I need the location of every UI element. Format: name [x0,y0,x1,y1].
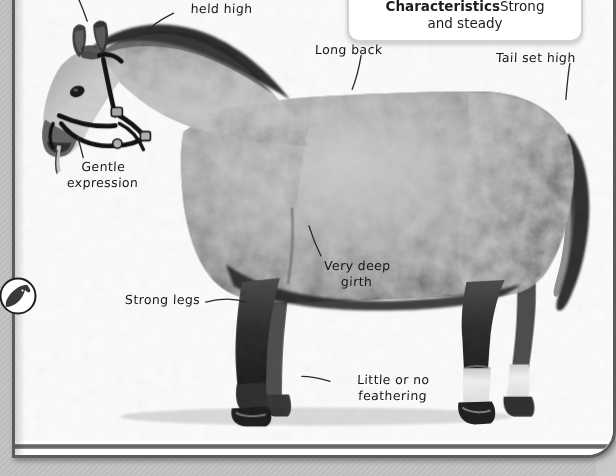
label-long-back: Long back [315,42,383,58]
label-gentle-expression: Gentle expression [54,159,151,190]
characteristics-heading: Characteristics [386,0,500,14]
horse-photograph [15,0,613,441]
page-content-area: Long ears Head and neck held high Long b… [15,0,613,455]
ground-line [15,444,613,449]
label-little-feathering: Little or no feathering [340,372,445,403]
label-head-and-neck: Head and neck held high [166,0,277,16]
horse-head-roundel-icon [0,276,38,316]
characteristics-line-2: and steady [349,15,581,32]
characteristics-value-1: Strong [500,0,545,14]
book-page: Long ears Head and neck held high Long b… [12,0,616,458]
label-very-deep-girth: Very deep girth [310,258,403,289]
label-tail-set-high: Tail set high [496,50,576,66]
characteristics-line-1: CharacteristicsStrong [349,0,581,15]
label-strong-legs: Strong legs [125,292,201,308]
characteristics-box: CharacteristicsStrong and steady [347,0,583,42]
